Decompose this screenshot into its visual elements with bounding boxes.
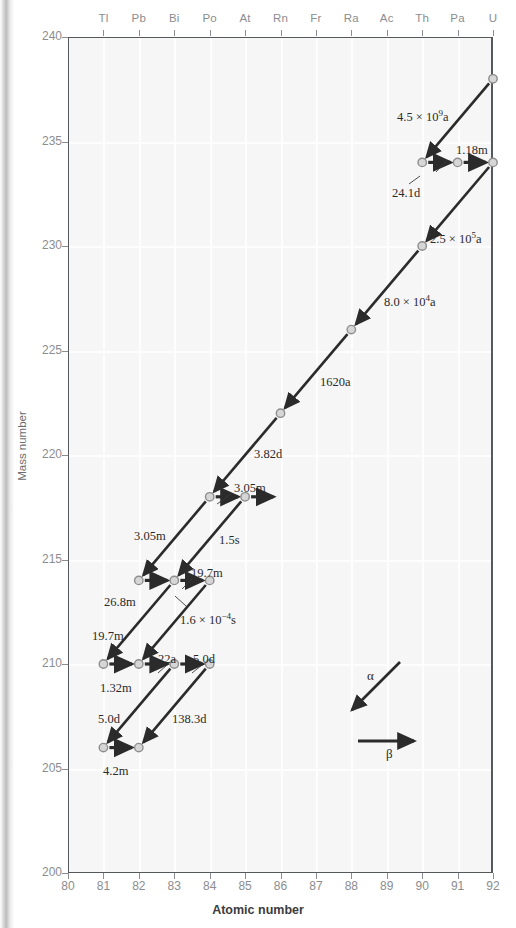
y-tick-label-225: 225 <box>22 343 62 357</box>
x-tick-label-81: 81 <box>83 879 123 893</box>
horizontal-gridline <box>69 769 491 771</box>
horizontal-gridline <box>69 351 491 353</box>
y-tick-label-230: 230 <box>22 238 62 252</box>
annotation-bi210-alpha-halflife: 5.0d <box>98 712 120 727</box>
element-symbol-po: Po <box>190 12 230 24</box>
y-tick-label-205: 205 <box>22 761 62 775</box>
element-symbol-at: At <box>225 12 265 24</box>
element-symbol-rn: Rn <box>261 12 301 24</box>
y-tick-label-235: 235 <box>22 134 62 148</box>
y-axis-title: Mass number <box>16 386 28 506</box>
x-tick-label-84: 84 <box>190 879 230 893</box>
element-tick-mark <box>493 30 494 36</box>
x-tick-label-86: 86 <box>261 879 301 893</box>
annotation-th234-halflife: 24.1d <box>392 186 420 201</box>
element-tick-mark <box>316 30 317 36</box>
annotation-rn222-halflife: 3.82d <box>254 447 282 462</box>
y-tick-mark <box>62 351 68 352</box>
element-symbol-u: U <box>473 12 513 24</box>
annotation-po218-alpha-halflife: 3.05m <box>134 529 166 544</box>
annotation-th230-halflife: 8.0 × 104a <box>384 293 436 310</box>
element-tick-mark <box>351 30 352 36</box>
horizontal-gridline <box>69 142 491 144</box>
element-symbol-tl: Tl <box>83 12 123 24</box>
annotation-po210-halflife: 138.3d <box>172 712 206 727</box>
legend-beta-symbol: β <box>386 746 393 762</box>
x-tick-label-80: 80 <box>48 879 88 893</box>
y-tick-mark <box>62 873 68 874</box>
decay-chain-figure: 8081828384858687888990919220020521021522… <box>0 0 516 928</box>
x-tick-label-88: 88 <box>331 879 371 893</box>
element-tick-mark <box>139 30 140 36</box>
element-tick-mark <box>458 30 459 36</box>
y-tick-label-240: 240 <box>22 29 62 43</box>
annotation-u234-halflife: 2.5 × 105a <box>430 230 482 247</box>
horizontal-gridline <box>69 246 491 248</box>
x-tick-label-90: 90 <box>402 879 442 893</box>
y-tick-mark <box>62 455 68 456</box>
annotation-ra226-halflife: 1620a <box>320 375 351 390</box>
x-tick-label-85: 85 <box>225 879 265 893</box>
element-tick-mark <box>281 30 282 36</box>
legend-alpha-symbol: α <box>367 668 374 684</box>
y-tick-label-210: 210 <box>22 656 62 670</box>
element-symbol-fr: Fr <box>296 12 336 24</box>
y-tick-mark <box>62 37 68 38</box>
y-tick-mark <box>62 560 68 561</box>
y-tick-mark <box>62 664 68 665</box>
element-tick-mark <box>387 30 388 36</box>
y-tick-mark <box>62 246 68 247</box>
element-tick-mark <box>174 30 175 36</box>
x-axis-title: Atomic number <box>0 903 516 917</box>
x-tick-label-87: 87 <box>296 879 336 893</box>
element-symbol-ra: Ra <box>331 12 371 24</box>
annotation-pb210-halflife: 22a <box>158 652 176 667</box>
y-tick-mark <box>62 769 68 770</box>
x-tick-label-89: 89 <box>367 879 407 893</box>
x-tick-label-83: 83 <box>154 879 194 893</box>
annotation-at218-halflife: 1.5s <box>219 533 240 548</box>
y-tick-label-200: 200 <box>22 865 62 879</box>
element-symbol-bi: Bi <box>154 12 194 24</box>
element-symbol-th: Th <box>402 12 442 24</box>
element-tick-mark <box>245 30 246 36</box>
element-tick-mark <box>210 30 211 36</box>
annotation-pb214-halflife: 26.8m <box>104 595 136 610</box>
horizontal-gridline <box>69 560 491 562</box>
y-tick-mark <box>62 142 68 143</box>
element-symbol-pa: Pa <box>438 12 478 24</box>
annotation-tl210-halflife: 1.32m <box>100 681 132 696</box>
annotation-tl206-halflife: 4.2m <box>103 764 128 779</box>
element-symbol-pb: Pb <box>119 12 159 24</box>
horizontal-gridline <box>69 664 491 666</box>
element-symbol-ac: Ac <box>367 12 407 24</box>
element-tick-mark <box>422 30 423 36</box>
x-tick-label-91: 91 <box>438 879 478 893</box>
annotation-po218-beta-halflife: 3.05m <box>234 481 266 496</box>
annotation-bi210-beta-halflife: 5.0d <box>193 652 215 667</box>
x-tick-label-82: 82 <box>119 879 159 893</box>
element-tick-mark <box>103 30 104 36</box>
y-tick-label-215: 215 <box>22 552 62 566</box>
annotation-bi214-alpha-halflife: 19.7m <box>92 629 124 644</box>
annotation-bi214-beta-halflife: 19.7m <box>191 566 223 581</box>
annotation-pa234-halflife: 1.18m <box>456 143 488 158</box>
annotation-u238-halflife: 4.5 × 109a <box>397 108 449 125</box>
y-tick-label-220: 220 <box>22 447 62 461</box>
annotation-po214-halflife: 1.6 × 10−4s <box>180 611 236 628</box>
x-tick-label-92: 92 <box>473 879 513 893</box>
